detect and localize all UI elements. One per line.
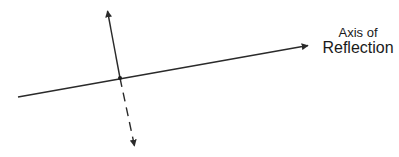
intersection-point <box>118 76 122 80</box>
reflection-diagram <box>0 0 399 157</box>
axis-of-reflection-line <box>18 46 308 98</box>
perpendicular-dashed-segment <box>120 78 135 146</box>
axis-label: Axis of Reflection <box>318 26 398 56</box>
axis-label-line1: Axis of <box>318 26 398 40</box>
axis-label-line2: Reflection <box>318 40 398 57</box>
perpendicular-solid-segment <box>108 11 121 78</box>
